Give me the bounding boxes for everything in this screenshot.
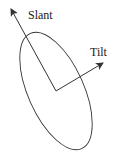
tilt-label: Tilt <box>90 45 108 59</box>
slant-tilt-diagram: Slant Tilt <box>0 0 119 161</box>
tilt-arrow <box>56 63 103 91</box>
slant-label: Slant <box>28 8 53 22</box>
